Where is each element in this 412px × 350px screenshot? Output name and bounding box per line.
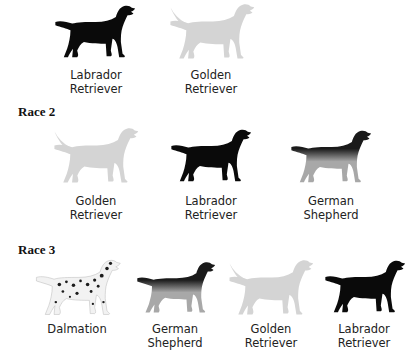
golden-retriever-icon xyxy=(50,126,140,186)
labrador-retriever-icon xyxy=(168,126,252,186)
label-line: German xyxy=(281,194,381,208)
label-line: Dalmation xyxy=(27,322,127,336)
german-shepherd-icon xyxy=(288,128,372,186)
dog-label: Labrador Retriever xyxy=(46,68,146,96)
labrador-retriever-icon xyxy=(52,2,136,62)
dog-label: Golden Retriever xyxy=(46,194,146,222)
german-shepherd-icon xyxy=(134,258,216,318)
golden-retriever-icon xyxy=(166,2,256,62)
label-line: Retriever xyxy=(314,336,412,350)
label-line: Golden xyxy=(46,194,146,208)
labrador-retriever-icon xyxy=(322,256,406,318)
dog-label: Labrador Retriever xyxy=(161,194,261,222)
label-line: German xyxy=(125,322,225,336)
golden-retriever-icon xyxy=(226,258,314,318)
label-line: Retriever xyxy=(221,336,321,350)
race-2-heading: Race 2 xyxy=(18,104,55,120)
dog-label: Dalmation xyxy=(27,322,127,336)
label-line: Labrador xyxy=(161,194,261,208)
dog-label: Golden Retriever xyxy=(221,322,321,350)
label-line: Retriever xyxy=(46,82,146,96)
label-line: Shepherd xyxy=(281,208,381,222)
label-line: Shepherd xyxy=(125,336,225,350)
dog-label: German Shepherd xyxy=(281,194,381,222)
label-line: Golden xyxy=(221,322,321,336)
race-3-heading: Race 3 xyxy=(18,242,55,258)
label-line: Retriever xyxy=(161,82,261,96)
label-line: Labrador xyxy=(46,68,146,82)
dog-label: German Shepherd xyxy=(125,322,225,350)
label-line: Labrador xyxy=(314,322,412,336)
label-line: Retriever xyxy=(46,208,146,222)
label-line: Golden xyxy=(161,68,261,82)
dalmatian-icon xyxy=(32,258,122,318)
label-line: Retriever xyxy=(161,208,261,222)
dog-label: Golden Retriever xyxy=(161,68,261,96)
dog-label: Labrador Retriever xyxy=(314,322,412,350)
